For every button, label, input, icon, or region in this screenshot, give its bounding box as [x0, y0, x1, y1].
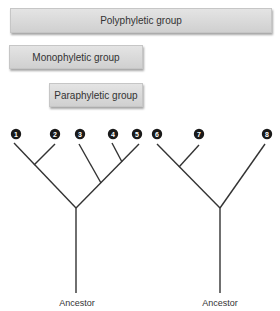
svg-text:2: 2 [53, 131, 57, 138]
ancestor-label-right: Ancestor [202, 298, 238, 308]
svg-text:3: 3 [78, 131, 82, 138]
svg-text:6: 6 [155, 131, 159, 138]
ancestor-label-left: Ancestor [59, 298, 95, 308]
svg-text:8: 8 [265, 131, 269, 138]
taxon-nodes: 1 2 3 4 5 6 7 8 [11, 129, 272, 139]
taxon-node-1: 1 [11, 129, 21, 139]
phylogenetic-trees: 1 2 3 4 5 6 7 8 [0, 0, 280, 311]
taxon-node-6: 6 [152, 129, 162, 139]
taxon-node-8: 8 [262, 129, 272, 139]
tree-left-branches [14, 143, 139, 293]
svg-text:4: 4 [111, 131, 115, 138]
taxon-node-4: 4 [108, 129, 118, 139]
svg-text:7: 7 [197, 131, 201, 138]
taxon-node-3: 3 [75, 129, 85, 139]
tree-right-branches [157, 144, 265, 293]
svg-text:5: 5 [135, 131, 139, 138]
svg-text:1: 1 [14, 131, 18, 138]
taxon-node-7: 7 [194, 129, 204, 139]
taxon-node-2: 2 [50, 129, 60, 139]
taxon-node-5: 5 [132, 129, 142, 139]
